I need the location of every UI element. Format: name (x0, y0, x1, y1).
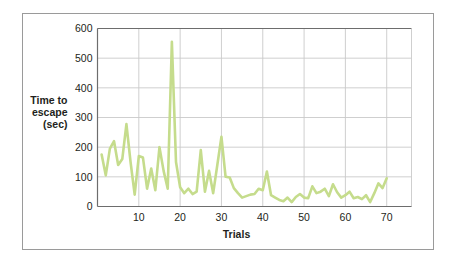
y-tick-label: 500 (75, 52, 93, 64)
x-tick-label: 20 (174, 211, 186, 223)
x-tick-label: 60 (340, 211, 352, 223)
y-tick-label: 200 (75, 141, 93, 153)
escape-time-line-chart: 010020030040050060010203040506070TrialsT… (0, 0, 456, 263)
x-tick-label: 30 (216, 211, 228, 223)
series-layer (102, 42, 387, 202)
y-tick-label: 300 (75, 111, 93, 123)
figure-root: 010020030040050060010203040506070TrialsT… (0, 0, 456, 263)
y-axis-title-line: escape (32, 106, 68, 118)
y-tick-label: 100 (75, 171, 93, 183)
x-axis-title: Trials (223, 228, 251, 240)
y-tick-label: 0 (87, 200, 93, 212)
y-tick-label: 600 (75, 22, 93, 34)
x-tick-label: 40 (257, 211, 269, 223)
y-tick-label: 400 (75, 82, 93, 94)
x-tick-label: 10 (133, 211, 145, 223)
y-axis-title-line: Time to (30, 94, 67, 106)
y-axis-title-line: (sec) (43, 118, 68, 130)
x-tick-label: 50 (298, 211, 310, 223)
data-series-line (102, 42, 387, 202)
x-tick-label: 70 (381, 211, 393, 223)
